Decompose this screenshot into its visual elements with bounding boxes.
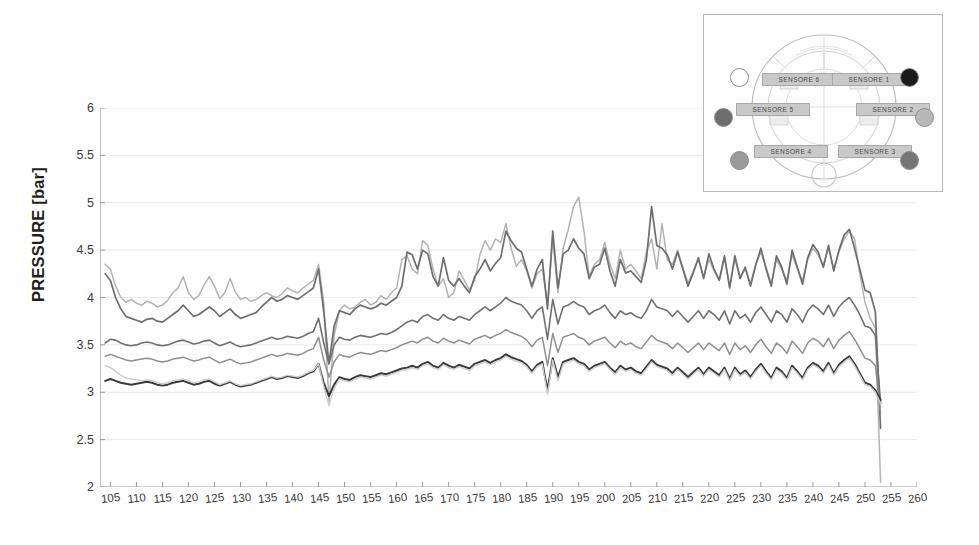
sensor-label: SENSORE 6 [762, 73, 836, 86]
series-line [105, 356, 880, 405]
sensor-label: SENSORE 4 [754, 145, 828, 158]
x-tick-label: 175 [465, 491, 485, 505]
y-axis-label: PRESSURE [bar] [29, 135, 48, 335]
y-tick-label: 4.5 [60, 243, 94, 257]
x-tick-label: 160 [387, 491, 407, 505]
sensor-color-marker [900, 68, 919, 87]
x-tick-label: 135 [257, 491, 277, 505]
x-tick-label: 150 [335, 491, 355, 505]
x-tick-label: 115 [153, 491, 172, 505]
x-tick-label: 105 [101, 491, 121, 505]
y-tick-label: 3 [60, 385, 94, 399]
series-line [105, 207, 880, 429]
x-tick-label: 230 [751, 491, 771, 505]
sensor-label: SENSORE 1 [832, 73, 906, 86]
x-tick-label: 195 [569, 491, 589, 505]
sensor-color-marker [730, 151, 749, 170]
series-line [105, 354, 880, 399]
x-tick-label: 140 [283, 491, 303, 505]
x-tick-label: 225 [725, 491, 745, 505]
x-tick-label: 165 [413, 491, 433, 505]
x-tick-label: 205 [621, 491, 641, 505]
sensor-layout-inset: SENSORE 6SENSORE 1SENSORE 5SENSORE 2SENS… [703, 14, 943, 192]
series-line [105, 298, 880, 404]
x-axis-tick-labels: 1051101151201251301351401451501551601651… [100, 492, 917, 516]
x-tick-label: 245 [829, 491, 849, 505]
x-tick-label: 215 [673, 491, 693, 505]
x-tick-label: 220 [699, 491, 719, 505]
y-axis-tick-labels: 22.533.544.555.56 [56, 108, 94, 487]
x-tick-label: 180 [491, 491, 511, 505]
x-tick-label: 120 [179, 491, 199, 505]
x-tick-label: 250 [855, 491, 875, 505]
x-tick-label: 190 [543, 491, 563, 505]
x-tick-label: 130 [231, 491, 251, 505]
x-tick-label: 255 [881, 491, 901, 505]
x-tick-label: 235 [777, 491, 797, 505]
y-tick-label: 4 [60, 291, 94, 305]
sensor-color-marker [730, 68, 749, 87]
x-tick-label: 145 [309, 491, 329, 505]
sensor-label: SENSORE 5 [736, 103, 810, 116]
y-tick-label: 3.5 [60, 338, 94, 352]
chart-page: PRESSURE [bar] 22.533.544.555.56 1051101… [0, 0, 979, 545]
y-tick-label: 6 [60, 101, 94, 115]
x-tick-label: 240 [803, 491, 823, 505]
x-tick-label: 170 [439, 491, 459, 505]
x-tick-label: 110 [127, 491, 146, 505]
y-tick-label: 5.5 [60, 148, 94, 162]
sensor-color-marker [915, 108, 934, 127]
sensor-color-marker [714, 108, 733, 127]
x-tick-label: 155 [361, 491, 381, 505]
x-tick-label: 260 [907, 491, 927, 505]
x-tick-label: 210 [647, 491, 667, 505]
x-tick-label: 125 [205, 491, 225, 505]
y-tick-label: 5 [60, 196, 94, 210]
sensor-color-marker [900, 151, 919, 170]
x-tick-label: 200 [595, 491, 615, 505]
x-tick-label: 185 [517, 491, 537, 505]
y-tick-label: 2 [60, 480, 94, 494]
y-tick-label: 2.5 [60, 433, 94, 447]
